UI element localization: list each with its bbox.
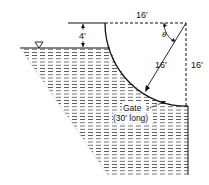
top-width-label: 16' [136, 10, 148, 20]
theta-label: θ [162, 30, 167, 39]
depth-label: 4' [79, 31, 86, 41]
water-region [0, 45, 209, 185]
water-surface-marker-icon [35, 42, 43, 48]
gate-length-label: (30' long) [113, 113, 148, 123]
theta-arrowhead-top-icon [163, 23, 167, 27]
radius-label: 16' [155, 60, 167, 70]
gate-name-label: Gate [123, 103, 142, 113]
gate-diagram: 4' 16' 16' 16' θ Gate (30' long) [0, 0, 209, 185]
right-height-label: 16' [191, 60, 203, 70]
